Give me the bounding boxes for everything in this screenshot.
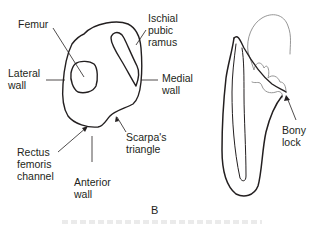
label-medial-wall: Medial wall bbox=[162, 72, 193, 96]
pelvis-outline bbox=[248, 15, 291, 54]
panel-label: B bbox=[151, 204, 158, 216]
ischial-ramus-section bbox=[111, 33, 138, 86]
label-scarpas-triangle: Scarpa's triangle bbox=[126, 131, 167, 155]
label-anterior-wall: Anterior wall bbox=[74, 176, 111, 200]
label-bony-lock: Bony lock bbox=[282, 124, 306, 148]
socket-top-rim bbox=[234, 37, 286, 92]
leader-lines-right bbox=[288, 100, 296, 120]
label-lateral-wall: Lateral wall bbox=[8, 67, 40, 91]
arrowheads-left bbox=[82, 116, 119, 132]
femur-section bbox=[71, 61, 98, 92]
label-femur: Femur bbox=[18, 18, 48, 30]
pelvis-inner bbox=[248, 52, 286, 92]
arrowheads-right bbox=[284, 95, 290, 101]
socket-side-view bbox=[222, 15, 291, 196]
pelvis-detail bbox=[252, 82, 283, 98]
label-rectus-femoris-channel: Rectus femoris channel bbox=[17, 146, 54, 182]
socket-inner-channel bbox=[232, 44, 246, 181]
label-ischial-pubic-ramus: Ischial pubic ramus bbox=[148, 12, 178, 48]
cut-off-caption-line bbox=[62, 220, 262, 224]
socket-cross-section bbox=[63, 22, 142, 127]
